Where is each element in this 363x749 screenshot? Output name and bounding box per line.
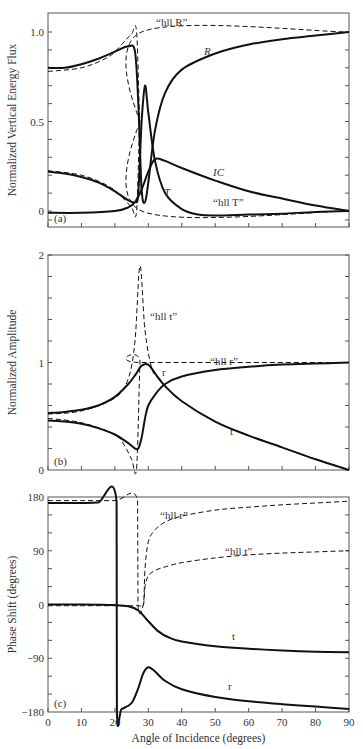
y-tick-label: 0 — [39, 205, 45, 217]
y-tick-label: 0.5 — [30, 116, 44, 128]
x-tick-label: 20 — [109, 716, 121, 728]
curve-t — [48, 604, 349, 652]
x-tick-label: 80 — [310, 716, 322, 728]
y-tick-label: 90 — [33, 545, 45, 557]
y-tick-label: 180 — [28, 491, 45, 503]
curve-label: r — [162, 366, 166, 378]
y-axis-title: Phase Shift (degrees) — [6, 555, 19, 653]
panel-a — [48, 13, 349, 227]
y-tick-label: 1.0 — [30, 26, 44, 38]
panel-tag: (a) — [54, 212, 67, 225]
y-tick-label: 0 — [39, 599, 45, 611]
curve-label: “hll T” — [213, 196, 244, 208]
x-tick-label: 70 — [277, 716, 289, 728]
x-tick-label: 60 — [243, 716, 255, 728]
curve-hll-r — [48, 25, 349, 121]
y-tick-label: −90 — [27, 652, 45, 664]
curve-label: “hll t” — [225, 545, 252, 557]
figure: 1.00.50(a)Normalized Vertical Energy Flu… — [0, 0, 363, 749]
x-tick-label: 30 — [143, 716, 155, 728]
x-tick-label: 50 — [210, 716, 222, 728]
panel-tag: (c) — [54, 697, 67, 710]
curves-panel-c — [48, 486, 349, 726]
panel-tag: (b) — [54, 455, 67, 468]
y-tick-label: 2 — [39, 249, 45, 261]
x-tick-label: 90 — [344, 716, 356, 728]
x-tick-label: 0 — [45, 716, 51, 728]
plot-frame — [48, 13, 349, 227]
x-tick-label: 40 — [176, 716, 188, 728]
curve-label: t — [232, 630, 235, 642]
y-axis-title: Normalized Amplitude — [6, 310, 19, 416]
curve-label: “hll t” — [150, 310, 177, 322]
curve-ic — [48, 158, 349, 213]
y-tick-label: 0 — [39, 464, 45, 476]
curve-r — [48, 32, 349, 203]
curve-label: T — [164, 186, 171, 198]
x-tick-label: 10 — [76, 716, 88, 728]
curve-label: r — [228, 680, 232, 692]
curve-t — [48, 364, 349, 470]
curve-label: IC — [212, 166, 225, 178]
curve-hll-t — [48, 266, 349, 470]
curves-panel-a — [48, 25, 349, 217]
y-tick-label: −180 — [21, 706, 44, 718]
curve-label: “hll r” — [160, 509, 188, 521]
y-tick-label: 1 — [39, 357, 45, 369]
curve-label: “hll R” — [156, 16, 188, 28]
curve-label: t — [230, 425, 233, 437]
curve-r — [48, 486, 349, 726]
curve-hll-t — [48, 551, 349, 607]
curve-t — [48, 86, 349, 216]
y-axis-title: Normalized Vertical Energy Flux — [6, 43, 19, 196]
x-axis-title: Angle of Incidence (degrees) — [132, 732, 266, 745]
curve-label: “hll r” — [210, 355, 238, 367]
curve-label: R — [203, 45, 211, 57]
curve-r — [48, 363, 349, 450]
curves-panel-b — [48, 266, 349, 474]
curve-hll-r — [48, 493, 349, 614]
